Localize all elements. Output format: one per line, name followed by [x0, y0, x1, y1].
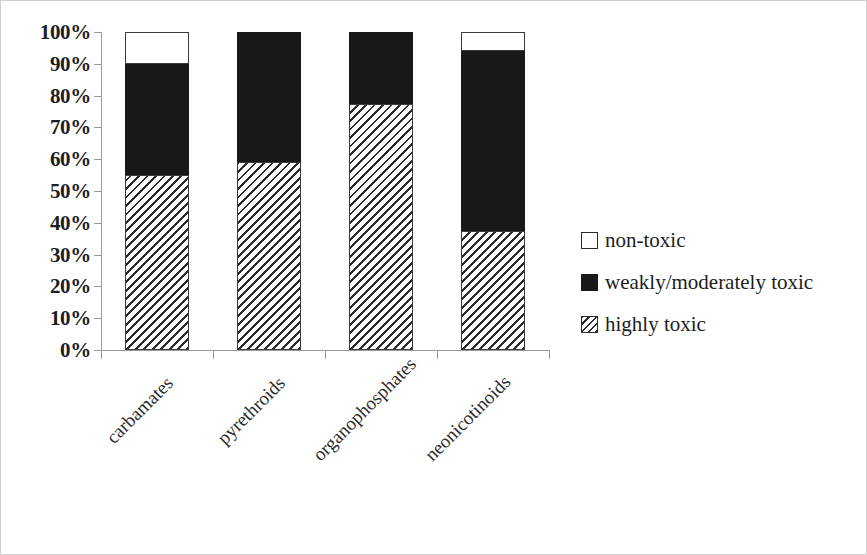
bar-segment-weakly-moderately-toxic[interactable]	[125, 64, 189, 175]
y-axis-tick-label: 70%	[13, 117, 91, 138]
x-axis-tick-mark	[213, 350, 214, 359]
y-axis-tick-label: 100%	[13, 22, 91, 43]
bar-segment-highly-toxic[interactable]	[237, 162, 301, 350]
bar-organophosphates[interactable]	[349, 32, 413, 350]
bar-segment-non-toxic[interactable]	[125, 32, 189, 64]
legend-item-highly-toxic[interactable]: highly toxic	[581, 303, 861, 345]
bar-segment-weakly-moderately-toxic[interactable]	[349, 32, 413, 104]
bar-segment-highly-toxic[interactable]	[461, 231, 525, 350]
legend-item-label: highly toxic	[605, 314, 706, 335]
x-axis-category-label: organophosphates	[309, 373, 400, 464]
bar-segment-highly-toxic[interactable]	[125, 175, 189, 350]
legend-item-weakly-moderately-toxic[interactable]: weakly/moderately toxic	[581, 261, 861, 303]
y-axis-tick-label: 60%	[13, 149, 91, 170]
x-axis-category-label: pyrethroids	[197, 373, 288, 464]
chart-page: 100%90%80%70%60%50%40%30%20%10%0% carbam…	[0, 0, 867, 555]
y-axis-tick-label: 80%	[13, 86, 91, 107]
legend-item-non-toxic[interactable]: non-toxic	[581, 219, 861, 261]
black-square-icon	[581, 274, 598, 291]
hatched-square-icon	[581, 316, 598, 333]
x-axis-tick-mark	[101, 350, 102, 359]
y-axis-tick-label: 20%	[13, 276, 91, 297]
bar-segment-weakly-moderately-toxic[interactable]	[461, 51, 525, 231]
plot-area	[101, 32, 549, 350]
x-axis-tick-mark	[549, 350, 550, 359]
x-axis-category-label: neonicotinoids	[421, 373, 512, 464]
bar-segment-weakly-moderately-toxic[interactable]	[237, 32, 301, 162]
y-axis-tick-label: 50%	[13, 181, 91, 202]
white-square-icon	[581, 232, 598, 249]
legend-item-label: non-toxic	[605, 230, 685, 251]
bar-segment-non-toxic[interactable]	[461, 32, 525, 51]
x-axis-tick-mark	[325, 350, 326, 359]
x-axis-tick-mark	[437, 350, 438, 359]
x-axis-category-label: carbamates	[85, 373, 176, 464]
bar-neonicotinoids[interactable]	[461, 32, 525, 350]
y-axis-label-group: 100%90%80%70%60%50%40%30%20%10%0%	[13, 21, 91, 361]
bar-carbamates[interactable]	[125, 32, 189, 350]
y-axis-tick-label: 40%	[13, 213, 91, 234]
y-axis-tick-label: 0%	[13, 340, 91, 361]
bar-pyrethroids[interactable]	[237, 32, 301, 350]
y-axis-tick-label: 30%	[13, 245, 91, 266]
y-axis-tick-label: 10%	[13, 308, 91, 329]
y-axis-tick-label: 90%	[13, 54, 91, 75]
stacked-bar-chart: 100%90%80%70%60%50%40%30%20%10%0% carbam…	[1, 1, 867, 555]
legend-item-label: weakly/moderately toxic	[605, 272, 813, 293]
chart-legend: non-toxicweakly/moderately toxichighly t…	[581, 219, 861, 345]
bar-segment-highly-toxic[interactable]	[349, 104, 413, 350]
